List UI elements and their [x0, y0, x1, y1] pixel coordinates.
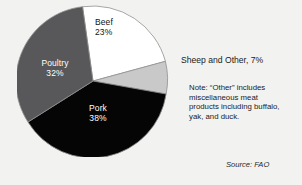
pie-svg	[17, 5, 169, 157]
pie-label-pork: Pork 38%	[69, 103, 127, 123]
pie-label-poultry-value: 32%	[26, 68, 84, 78]
pie-label-poultry-name: Poultry	[26, 58, 84, 68]
pie-label-poultry: Poultry 32%	[26, 58, 84, 78]
pie-label-beef: Beef 23%	[95, 17, 113, 37]
chart-note: Note: “Other” includes miscellaneous mea…	[189, 83, 297, 121]
pie-chart-figure: Beef 23% Poultry 32% Pork 38% Sheep and …	[0, 0, 302, 185]
pie-label-pork-value: 38%	[69, 113, 127, 123]
pie-label-pork-name: Pork	[69, 103, 127, 113]
chart-note-line-4: yak, and duck.	[189, 112, 297, 122]
chart-note-line-1: Note: “Other” includes	[189, 83, 297, 93]
pie-callout-sheep-and-other: Sheep and Other, 7%	[181, 55, 263, 65]
chart-note-line-2: miscellaneous meat	[189, 93, 297, 103]
pie-label-beef-name: Beef	[95, 17, 113, 27]
chart-source-attribution: Source: FAO	[226, 160, 269, 169]
pie-chart-graphic	[17, 5, 169, 157]
pie-label-beef-value: 23%	[95, 27, 113, 37]
chart-note-line-3: products including buffalo,	[189, 102, 297, 112]
